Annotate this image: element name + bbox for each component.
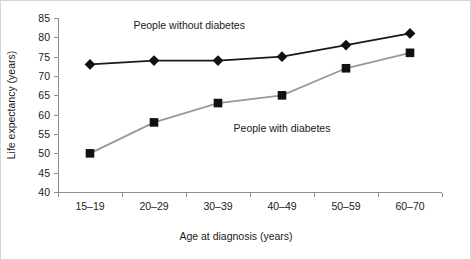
data-point-square xyxy=(278,91,287,100)
data-series xyxy=(86,49,415,158)
x-tick-label: 40–49 xyxy=(267,200,296,212)
y-tick-label: 85 xyxy=(38,12,50,24)
y-tick-label: 75 xyxy=(38,51,50,63)
data-point-diamond xyxy=(85,59,96,70)
y-tick-group: 40455055606570758085 xyxy=(38,12,58,198)
data-point-diamond xyxy=(277,51,288,62)
axes-group xyxy=(59,18,443,193)
y-tick-label: 60 xyxy=(38,109,50,121)
x-tick-group: 15–1920–2930–3940–4950–5960–70 xyxy=(59,193,443,212)
annotation-group: People without diabetesPeople with diabe… xyxy=(133,19,330,135)
series-line xyxy=(90,53,410,154)
x-tick-label: 60–70 xyxy=(395,200,424,212)
y-tick-label: 40 xyxy=(38,186,50,198)
data-point-square xyxy=(86,149,95,158)
y-tick-label: 45 xyxy=(38,167,50,179)
y-tick-label: 80 xyxy=(38,31,50,43)
data-point-diamond xyxy=(149,55,160,66)
series-annotation-label: People without diabetes xyxy=(133,19,245,31)
y-tick-label: 70 xyxy=(38,70,50,82)
data-point-square xyxy=(406,49,415,58)
series-line xyxy=(90,33,410,64)
series-annotation-label: People with diabetes xyxy=(234,122,331,134)
data-point-diamond xyxy=(405,28,416,39)
y-tick-label: 65 xyxy=(38,89,50,101)
y-tick-label: 50 xyxy=(38,147,50,159)
x-axis-title: Age at diagnosis (years) xyxy=(179,230,292,242)
data-point-diamond xyxy=(213,55,224,66)
y-axis-title: Life expectancy (years) xyxy=(5,51,17,160)
y-tick-label: 55 xyxy=(38,128,50,140)
data-point-square xyxy=(342,64,351,73)
chart-figure: 40455055606570758085 15–1920–2930–3940–4… xyxy=(0,0,471,260)
data-point-square xyxy=(214,99,223,108)
x-tick-label: 50–59 xyxy=(331,200,360,212)
data-point-diamond xyxy=(341,40,352,51)
x-tick-label: 30–39 xyxy=(203,200,232,212)
x-tick-label: 15–19 xyxy=(75,200,104,212)
series-group xyxy=(85,28,416,158)
x-tick-label: 20–29 xyxy=(139,200,168,212)
chart-plot-area: 40455055606570758085 15–1920–2930–3940–4… xyxy=(1,1,471,260)
data-point-square xyxy=(150,118,159,127)
